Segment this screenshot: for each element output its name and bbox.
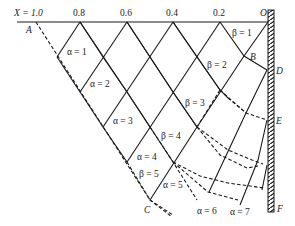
tick-0-4: 0.4 (166, 8, 178, 18)
point-c-label: C (144, 205, 151, 215)
beta-4-label: β = 4 (161, 131, 181, 141)
x-axis-label: X = 1.0 (13, 8, 43, 18)
beta-1-label: β = 1 (232, 28, 252, 38)
alpha-4-label: α = 4 (137, 152, 157, 162)
alpha-5-label: α = 5 (163, 180, 183, 190)
alpha-7-label: α = 7 (230, 207, 250, 217)
point-a-label: A (25, 25, 32, 35)
beta-5-label: β = 5 (139, 169, 159, 179)
alpha-2-label: α = 2 (90, 79, 110, 89)
point-o-label: O (260, 8, 267, 18)
tick-0-2: 0.2 (213, 8, 225, 18)
point-f-label: F (276, 204, 283, 214)
alpha-6-label: α = 6 (197, 206, 217, 216)
point-d-label: D (275, 66, 283, 76)
boundary-ac-dashed (36, 22, 172, 217)
alpha-lines (57, 22, 268, 205)
beta-2-label: β = 2 (207, 60, 227, 70)
tick-0-6: 0.6 (120, 8, 132, 18)
tick-0-8: 0.8 (73, 8, 85, 18)
characteristic-net-diagram: X = 1.0 0.8 0.6 0.4 0.2 O A B C D E F α … (0, 0, 295, 226)
point-e-label: E (275, 116, 282, 126)
point-b-label: B (250, 52, 256, 62)
alpha-3-label: α = 3 (113, 116, 133, 126)
hatched-wall (268, 10, 274, 212)
alpha-1-label: α = 1 (67, 47, 87, 57)
beta-lines-upper (57, 22, 220, 162)
beta-3-label: β = 3 (185, 98, 205, 108)
